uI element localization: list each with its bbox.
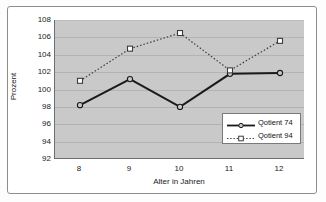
y-axis-tick-label: 102 [29, 68, 51, 76]
data-point-marker [128, 46, 133, 51]
data-point-marker [77, 103, 82, 108]
x-axis-tick-label: 8 [64, 164, 94, 174]
legend-item-series-1[interactable]: Qotient 74 [223, 116, 300, 129]
data-point-marker [78, 78, 83, 83]
x-axis-tick-label: 12 [264, 164, 294, 174]
series-line-1 [80, 73, 280, 107]
y-axis-tick-label: 96 [29, 120, 51, 128]
data-point-marker [228, 68, 233, 73]
y-axis-tick-label: 94 [29, 138, 51, 146]
data-point-marker [178, 31, 183, 36]
x-axis-title: Alter in Jahren [54, 177, 304, 186]
data-point-marker [277, 70, 282, 75]
x-axis-tick-label: 9 [114, 164, 144, 174]
y-axis-title: Prozent [9, 57, 18, 117]
legend-swatch-solid-circle [226, 117, 256, 128]
legend-swatch-dotted-square [226, 130, 256, 141]
chart-legend: Qotient 74 Qotient 94 [222, 113, 301, 144]
y-axis-tick-label: 108 [29, 16, 51, 24]
x-axis-tick-label: 11 [214, 164, 244, 174]
y-axis-tick-label: 106 [29, 33, 51, 41]
y-axis-tick-label: 104 [29, 51, 51, 59]
chart-figure: Prozent 92949698100102104106108 89101112… [0, 0, 326, 202]
y-axis-tick-label: 98 [29, 103, 51, 111]
y-axis-tick-label: 92 [29, 155, 51, 163]
data-point-marker [177, 104, 182, 109]
y-axis-tick-label: 100 [29, 86, 51, 94]
legend-label-series-2: Qotient 94 [258, 131, 293, 140]
data-point-marker [278, 38, 283, 43]
y-axis-tick-labels: 92949698100102104106108 [26, 20, 51, 159]
x-axis-tick-label: 10 [164, 164, 194, 174]
legend-label-series-1: Qotient 74 [258, 118, 293, 127]
legend-item-series-2[interactable]: Qotient 94 [223, 129, 300, 142]
data-point-marker [127, 76, 132, 81]
x-axis-tick-labels: 89101112 [54, 164, 304, 176]
